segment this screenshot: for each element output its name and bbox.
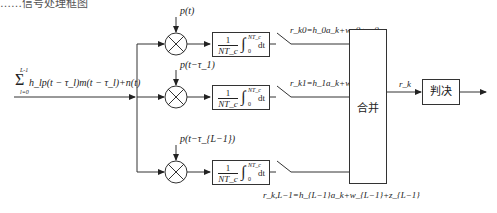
integrator-block-2: 1NT_c ∫NT_c0dt [212, 160, 270, 185]
reference-label-2: p(t−τ_{L−1}) [180, 134, 235, 144]
decision-label: 判决 [430, 86, 452, 97]
sum-symbol: Σ [15, 72, 24, 88]
sampling-switch-0 [277, 33, 291, 44]
multiplier-icon-2 [165, 161, 187, 183]
multiplier-icon-0 [165, 33, 187, 55]
combined-output-label: r_k [399, 80, 411, 89]
combiner-label: 合并 [357, 103, 379, 114]
multiplier-icon-1 [165, 86, 187, 108]
sum-lower-limit: l=0 [20, 89, 29, 95]
branch-output-2: r_k,L−1=h_{L−1}a_k+w_{L−1}+z_{L−1} [263, 191, 420, 200]
reference-label-1: p(t−τ_1) [180, 60, 215, 70]
sampling-switch-2 [277, 161, 291, 172]
integrator-block-1: 1NT_c ∫NT_c0dt [212, 85, 270, 110]
sampling-switch-1 [277, 86, 291, 97]
input-signal-expression: h_lp(t − τ_l)m(t − τ_l)+n(t) [29, 78, 140, 88]
integrator-block-0: 1NT_c ∫NT_c0dt [212, 32, 270, 57]
reference-label-0: p(t) [180, 6, 194, 16]
truncated-caption: ……信号处理框图 [0, 0, 88, 10]
